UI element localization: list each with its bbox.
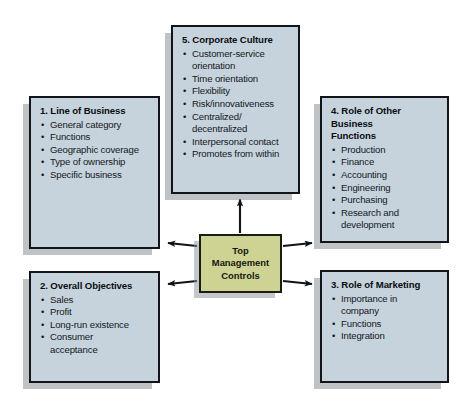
list-item: Sales: [40, 294, 150, 307]
list-item: Profit: [40, 306, 150, 319]
box-item-list: Sales Profit Long-run existence Consumer…: [40, 294, 150, 357]
box-role-of-marketing[interactable]: 3. Role of Marketing Importance in compa…: [320, 270, 449, 383]
list-item: Risk/innovativeness: [182, 98, 290, 111]
arrow-to-line-of-business: [168, 243, 197, 246]
box-item-list: Importance in company Functions Integrat…: [331, 293, 439, 343]
list-item: Functions: [40, 131, 150, 144]
list-item: Centralized/ decentralized: [182, 111, 290, 136]
list-item: Integration: [331, 330, 439, 343]
list-item: Time orientation: [182, 73, 290, 86]
list-item: Research and development: [331, 207, 439, 232]
arrow-to-role-of-other-business-functions: [283, 243, 312, 246]
box-title: 2. Overall Objectives: [40, 280, 150, 293]
box-corporate-culture[interactable]: 5. Corporate Culture Customer-service or…: [171, 25, 300, 194]
box-item-list: Customer-service orientation Time orient…: [182, 48, 290, 161]
list-item: General category: [40, 119, 150, 132]
box-item-list: General category Functions Geographic co…: [40, 119, 150, 182]
list-item: Geographic coverage: [40, 144, 150, 157]
list-item: Functions: [331, 318, 439, 331]
box-title: 4. Role of Other Business Functions: [331, 105, 439, 143]
list-item: Finance: [331, 156, 439, 169]
list-item: Engineering: [331, 182, 439, 195]
list-item: Importance in company: [331, 293, 439, 318]
list-item: Type of ownership: [40, 156, 150, 169]
box-overall-objectives[interactable]: 2. Overall Objectives Sales Profit Long-…: [29, 271, 160, 383]
list-item: Production: [331, 144, 439, 157]
box-role-of-other-business-functions[interactable]: 4. Role of Other Business Functions Prod…: [320, 96, 449, 243]
list-item: Long-run existence: [40, 319, 150, 332]
list-item: Accounting: [331, 169, 439, 182]
diagram-canvas: 5. Corporate Culture Customer-service or…: [0, 0, 475, 409]
box-title: 3. Role of Marketing: [331, 279, 439, 292]
box-top-management-controls[interactable]: Top Management Controls: [199, 234, 282, 293]
center-box-label: Top Management Controls: [212, 245, 269, 282]
arrow-to-role-of-marketing: [283, 281, 312, 284]
list-item: Specific business: [40, 169, 150, 182]
list-item: Promotes from within: [182, 148, 290, 161]
list-item: Interpersonal contact: [182, 136, 290, 149]
arrow-to-overall-objectives: [168, 281, 197, 284]
box-line-of-business[interactable]: 1. Line of Business General category Fun…: [29, 96, 160, 249]
box-title: 5. Corporate Culture: [182, 34, 290, 47]
list-item: Flexibility: [182, 85, 290, 98]
box-item-list: Production Finance Accounting Engineerin…: [331, 144, 439, 232]
list-item: Customer-service orientation: [182, 48, 290, 73]
box-title: 1. Line of Business: [40, 105, 150, 118]
list-item: Consumer acceptance: [40, 331, 150, 356]
list-item: Purchasing: [331, 194, 439, 207]
